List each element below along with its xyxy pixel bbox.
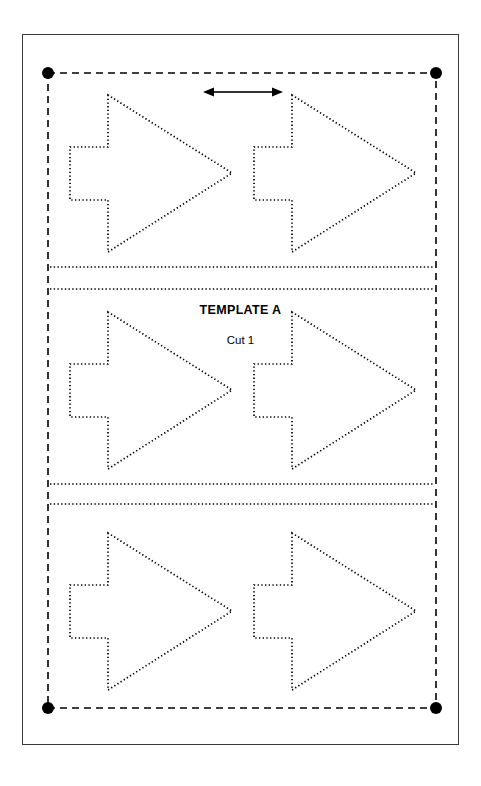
corner-marker-bottom-right <box>430 702 442 714</box>
width-dimension-arrow <box>203 88 283 97</box>
cut-number-label: Cut 1 <box>0 334 481 346</box>
corner-marker-bottom-left <box>42 702 54 714</box>
arrow-pieces-group <box>70 95 416 690</box>
arrow-head-left-icon <box>203 88 214 97</box>
cutting-diagram <box>0 0 481 786</box>
arrow-r3-c1 <box>70 533 232 690</box>
page-root: TEMPLATE A Cut 1 <box>0 0 481 786</box>
arrow-r1-c2 <box>254 95 416 252</box>
corner-marker-top-left <box>42 67 54 79</box>
arrow-r1-c1 <box>70 95 232 252</box>
arrow-r3-c2 <box>254 533 416 690</box>
fabric-boundary-rect <box>48 73 436 708</box>
corner-markers-group <box>42 67 442 714</box>
fabric-boundary <box>48 73 436 708</box>
arrow-head-right-icon <box>272 88 283 97</box>
corner-marker-top-right <box>430 67 442 79</box>
template-name-label: TEMPLATE A <box>0 303 481 317</box>
